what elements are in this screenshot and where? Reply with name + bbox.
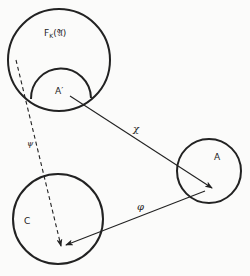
chi-label: χ [133,124,139,134]
a-prime-label: A′ [55,87,63,96]
diagram-canvas: FK(𝔄) A′ A C χ φ ψ [0,0,250,276]
fk-label-arg: (𝔄) [53,28,66,38]
chi-arrow [70,96,212,188]
fk-label: FK(𝔄) [44,29,66,39]
psi-label: ψ [27,140,33,148]
phi-arrow [66,191,205,245]
phi-label: φ [137,202,144,212]
c-label: C [24,217,30,226]
diagram-svg [0,0,250,276]
a-label: A [214,153,220,162]
